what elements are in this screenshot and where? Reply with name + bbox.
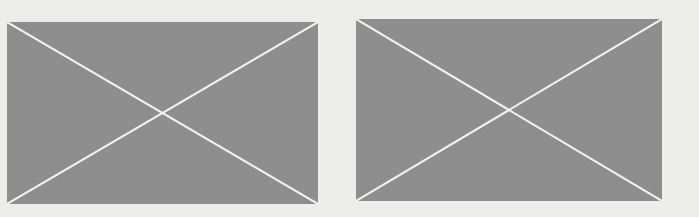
placeholder-image-1 — [7, 22, 318, 204]
image-placeholder-cross-icon — [7, 22, 318, 204]
placeholder-image-2 — [356, 19, 662, 201]
image-placeholder-cross-icon — [356, 19, 662, 201]
